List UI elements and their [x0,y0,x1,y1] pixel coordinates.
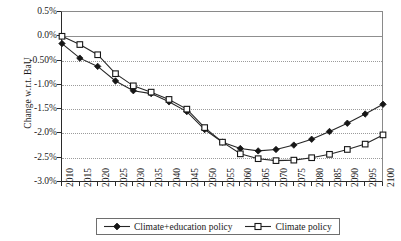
x-tick-label: 2080 [315,147,325,187]
open-square-icon [245,221,271,232]
y-tick-label: -0.50% [0,55,57,65]
x-tick-mark [311,182,312,186]
x-tick-label: 2035 [154,147,164,187]
x-tick-label: 2010 [65,147,75,187]
x-tick-mark [275,182,276,186]
data-point-marker [380,101,386,107]
x-tick-label: 2085 [333,147,343,187]
x-tick-label: 2070 [279,147,289,187]
legend-item[interactable]: Climate+education policy [104,221,232,232]
data-point-marker [362,111,368,117]
data-point-marker [95,52,101,58]
x-tick-mark [132,182,133,186]
legend-label: Climate policy [275,222,331,232]
x-tick-label: 2030 [136,147,146,187]
x-tick-mark [346,182,347,186]
x-tick-mark [79,182,80,186]
x-tick-mark [168,182,169,186]
x-tick-mark [204,182,205,186]
x-tick-label: 2040 [172,147,182,187]
data-point-marker [202,125,208,131]
data-point-marker [166,97,172,103]
filled-diamond-icon [104,221,130,232]
x-tick-label: 2100 [386,147,396,187]
x-tick-label: 2065 [261,147,271,187]
y-tick-label: -1.0% [0,79,57,89]
data-point-marker [309,155,315,161]
x-tick-label: 2055 [226,147,236,187]
x-tick-label: 2075 [297,147,307,187]
data-point-marker [131,83,137,89]
x-tick-label: 2060 [243,147,253,187]
y-tick-label: -2.5% [0,152,57,162]
data-point-marker [184,106,190,112]
x-tick-mark [382,182,383,186]
x-tick-mark [257,182,258,186]
data-point-marker [308,136,314,142]
x-tick-mark [239,182,240,186]
chart-legend: Climate+education policyClimate policy [96,218,340,235]
x-tick-mark [329,182,330,186]
x-tick-mark [150,182,151,186]
x-tick-mark [97,182,98,186]
data-point-marker [380,132,386,138]
data-point-marker [327,152,333,158]
y-axis-title: Change w.r.t. BaU [23,18,33,168]
data-point-marker [291,157,297,163]
data-point-marker [220,139,226,145]
data-point-marker [59,33,65,39]
data-point-marker [77,42,83,48]
y-tick-label: -1.5% [0,103,57,113]
data-point-marker [148,89,154,95]
series-line [62,44,383,151]
x-tick-mark [186,182,187,186]
data-point-marker [113,71,119,77]
x-tick-label: 2045 [190,147,200,187]
x-tick-mark [293,182,294,186]
x-tick-label: 2050 [208,147,218,187]
legend-item[interactable]: Climate policy [245,221,331,232]
x-tick-mark [222,182,223,186]
data-point-marker [273,158,279,164]
data-point-marker [344,120,350,126]
x-tick-label: 2020 [101,147,111,187]
legend-label: Climate+education policy [134,222,232,232]
chart-figure: Change w.r.t. BaU 0.5%0.0%-0.50%-1.0%-1.… [0,0,401,241]
x-tick-label: 2090 [350,147,360,187]
y-tick-label: 0.5% [0,6,57,16]
data-point-marker [326,128,332,134]
y-tick-label: 0.0% [0,30,57,40]
x-tick-mark [364,182,365,186]
y-tick-label: -3.0% [0,176,57,186]
x-tick-mark [115,182,116,186]
x-tick-label: 2015 [83,147,93,187]
x-tick-mark [61,182,62,186]
x-tick-label: 2095 [368,147,378,187]
x-tick-label: 2025 [119,147,129,187]
y-tick-label: -2.0% [0,127,57,137]
